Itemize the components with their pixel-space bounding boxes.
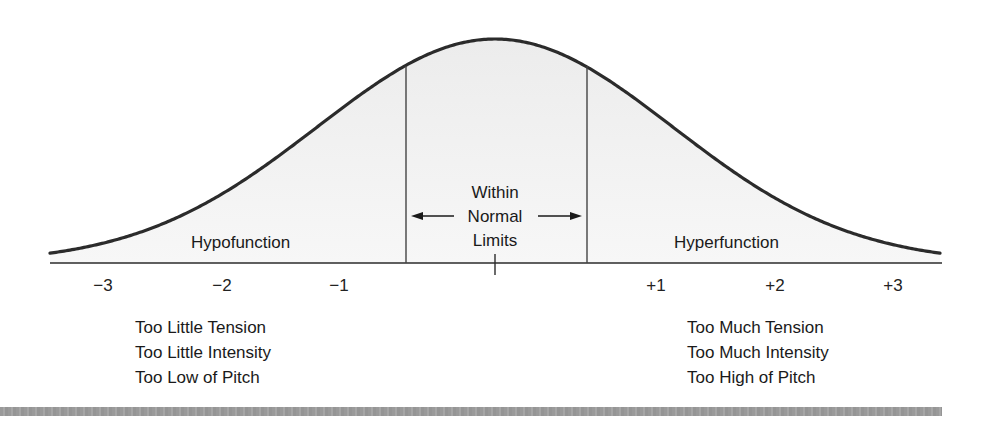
within-normal-limits-label: Within Normal Limits [468,181,523,253]
bottom-divider-band [0,407,942,416]
normal-label-line-2: Normal [468,205,523,229]
hyper-item: Too Much Intensity [687,340,829,365]
tick-label-minus-2: −2 [212,276,231,296]
tick-label-minus-1: −1 [329,276,348,296]
hypofunction-characteristics: Too Little Tension Too Little Intensity … [135,315,271,390]
hypo-item: Too Little Tension [135,315,271,340]
hyper-item: Too Much Tension [687,315,829,340]
tick-label-plus-1: +1 [646,276,665,296]
bell-curve-figure: Hypofunction Hyperfunction Within Normal… [0,0,989,428]
normal-label-line-1: Within [468,181,523,205]
hypo-item: Too Little Intensity [135,340,271,365]
normal-label-line-3: Limits [468,229,523,253]
tick-label-plus-3: +3 [883,276,902,296]
hyperfunction-characteristics: Too Much Tension Too Much Intensity Too … [687,315,829,390]
hypo-item: Too Low of Pitch [135,365,271,390]
hyper-item: Too High of Pitch [687,365,829,390]
tick-label-plus-2: +2 [765,276,784,296]
hyperfunction-label: Hyperfunction [674,234,779,251]
hypofunction-label: Hypofunction [191,234,290,251]
tick-label-minus-3: −3 [93,276,112,296]
